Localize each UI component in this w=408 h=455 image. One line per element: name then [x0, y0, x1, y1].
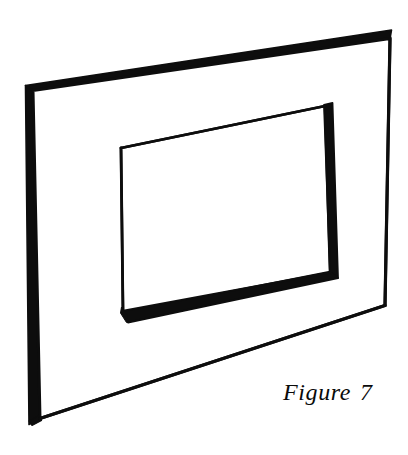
hole-left-edge-line — [121, 148, 123, 313]
figure-caption-number: 7 — [360, 379, 373, 405]
figure-caption-label: Figure — [283, 379, 351, 405]
figure-caption: Figure7 — [283, 379, 373, 406]
figure-illustration: Figure7 — [0, 0, 408, 455]
